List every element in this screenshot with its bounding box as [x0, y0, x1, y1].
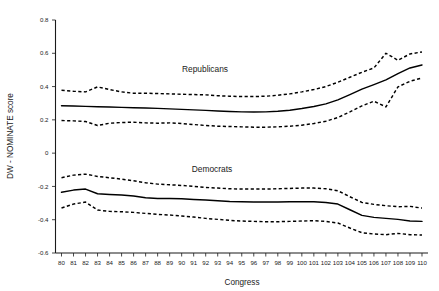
- y-tick-label: 0.4: [40, 83, 49, 90]
- series-line-democrats-upper-ci: [62, 174, 422, 208]
- x-tick-label: 92: [202, 259, 209, 266]
- x-tick-label: 106: [369, 259, 380, 266]
- series-line-republicans-lower-ci: [62, 78, 422, 127]
- y-tick-label: 0.6: [40, 49, 49, 56]
- x-tick-label: 97: [262, 259, 269, 266]
- x-tick-label: 105: [357, 259, 368, 266]
- x-tick-label: 85: [118, 259, 125, 266]
- x-tick-label: 101: [309, 259, 320, 266]
- x-tick-label: 90: [178, 259, 185, 266]
- series-line-republicans: [62, 65, 422, 112]
- series-label-democrats: Democrats: [192, 164, 233, 174]
- x-tick-label: 98: [274, 259, 281, 266]
- x-tick-label: 82: [82, 259, 89, 266]
- x-axis-tick-labels: 8081828384858687888990919293949596979899…: [58, 259, 427, 266]
- x-tick-label: 88: [154, 259, 161, 266]
- x-tick-label: 109: [405, 259, 416, 266]
- y-axis-title: DW - NOMINATE score: [6, 93, 15, 179]
- x-tick-label: 86: [130, 259, 137, 266]
- x-tick-label: 107: [381, 259, 392, 266]
- dw-nominate-chart-figure: 0.80.60.40.20-0.2-0.4-0.6 80818283848586…: [0, 0, 439, 291]
- series-line-democrats: [62, 189, 422, 221]
- x-tick-label: 89: [166, 259, 173, 266]
- x-tick-label: 99: [286, 259, 293, 266]
- x-tick-label: 102: [321, 259, 332, 266]
- y-tick-label: -0.6: [38, 249, 49, 256]
- x-tick-label: 100: [297, 259, 308, 266]
- x-tick-label: 91: [190, 259, 197, 266]
- y-axis-tick-labels: 0.80.60.40.20-0.2-0.4-0.6: [38, 16, 49, 256]
- series-line-democrats-lower-ci: [62, 202, 422, 235]
- series-line-republicans-upper-ci: [62, 52, 422, 97]
- y-tick-label: 0.8: [40, 16, 49, 23]
- x-tick-label: 96: [250, 259, 257, 266]
- x-tick-label: 87: [142, 259, 149, 266]
- x-tick-label: 81: [70, 259, 77, 266]
- x-tick-label: 108: [393, 259, 404, 266]
- series-paths-group: [62, 52, 422, 235]
- x-tick-label: 93: [214, 259, 221, 266]
- x-tick-label: 80: [58, 259, 65, 266]
- x-tick-label: 104: [345, 259, 356, 266]
- y-tick-label: 0.2: [40, 116, 49, 123]
- series-label-republicans: Republicans: [182, 64, 228, 74]
- y-tick-label: -0.4: [38, 216, 49, 223]
- x-tick-label: 84: [106, 259, 113, 266]
- x-tick-label: 83: [94, 259, 101, 266]
- y-tick-label: 0: [45, 149, 49, 156]
- x-axis-title: Congress: [224, 278, 259, 287]
- y-tick-label: -0.2: [38, 183, 49, 190]
- x-tick-label: 110: [417, 259, 427, 266]
- x-tick-label: 103: [333, 259, 344, 266]
- chart-canvas: 0.80.60.40.20-0.2-0.4-0.6 80818283848586…: [0, 0, 439, 291]
- x-tick-label: 95: [238, 259, 245, 266]
- x-tick-label: 94: [226, 259, 233, 266]
